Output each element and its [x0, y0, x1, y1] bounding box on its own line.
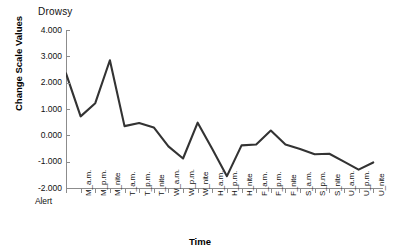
x-axis-title: Time [0, 236, 400, 247]
x-tick-label: M_nite [113, 173, 122, 196]
x-tick-label: T_nite [157, 174, 166, 196]
x-tick-label: U_nite [377, 173, 386, 196]
x-tick-mark [66, 189, 67, 193]
data-line [66, 60, 373, 176]
x-tick-mark [285, 189, 286, 193]
x-tick-mark [300, 189, 301, 193]
y-tick-mark [66, 30, 70, 31]
y-tick-label: 2.000 [26, 77, 62, 87]
x-tick-label: F_p.m. [274, 172, 283, 196]
x-tick-mark [315, 189, 316, 193]
x-tick-mark [95, 189, 96, 193]
y-tick-label: 1.000 [26, 104, 62, 114]
y-axis-title: Change Scale Values [13, 6, 24, 122]
y-tick-label: -1.000 [26, 156, 62, 166]
x-tick-label: T_p.m. [143, 172, 152, 196]
x-tick-label: W_a.m. [172, 169, 181, 196]
x-tick-label: M_a.m. [84, 170, 93, 196]
x-tick-mark [373, 189, 374, 193]
x-tick-label: S_p.m. [318, 171, 327, 196]
x-tick-label: H_nite [245, 173, 254, 196]
y-tick-mark [66, 83, 70, 84]
x-tick-label: H_a.m. [216, 171, 225, 196]
x-tick-mark [329, 189, 330, 193]
x-tick-mark [242, 189, 243, 193]
y-tick-label: -2.000 [26, 183, 62, 193]
x-tick-label: W_p.m. [187, 169, 196, 196]
x-tick-mark [125, 189, 126, 193]
y-tick-label: 0.000 [26, 130, 62, 140]
y-tick-mark [66, 135, 70, 136]
x-tick-mark [256, 189, 257, 193]
x-tick-label: F_nite [289, 174, 298, 196]
x-tick-mark [271, 189, 272, 193]
x-tick-label: U_a.m. [347, 171, 356, 196]
y-tick-label: 3.000 [26, 51, 62, 61]
x-tick-mark [81, 189, 82, 193]
x-tick-mark [110, 189, 111, 193]
x-tick-mark [168, 189, 169, 193]
y-tick-label: 4.000 [26, 25, 62, 35]
x-tick-mark [154, 189, 155, 193]
x-tick-mark [198, 189, 199, 193]
x-tick-mark [212, 189, 213, 193]
x-tick-mark [183, 189, 184, 193]
x-tick-label: S_a.m. [304, 171, 313, 196]
x-tick-label: T_a.m. [128, 172, 137, 196]
x-tick-label: U_p.m. [362, 171, 371, 196]
x-tick-label: W_nite [201, 172, 210, 196]
x-tick-label: F_a.m. [260, 172, 269, 196]
x-tick-mark [139, 189, 140, 193]
plot-area [66, 30, 382, 188]
x-tick-label: M_p.m. [99, 170, 108, 196]
x-tick-label: S_nite [333, 174, 342, 196]
x-tick-label: H_p.m. [230, 171, 239, 196]
y-tick-mark [66, 188, 70, 189]
y-tick-mark [66, 56, 70, 57]
y-axis-ticks: 4.0003.0002.0001.0000.000-1.000-2.000 [24, 0, 62, 252]
line-series-svg [66, 30, 382, 188]
y-tick-mark [66, 162, 70, 163]
x-tick-mark [344, 189, 345, 193]
x-tick-label: Alert [35, 196, 52, 206]
chart-page: Drowsy Change Scale Values 4.0003.0002.0… [0, 0, 400, 252]
x-tick-mark [359, 189, 360, 193]
y-tick-mark [66, 109, 70, 110]
x-tick-mark [227, 189, 228, 193]
